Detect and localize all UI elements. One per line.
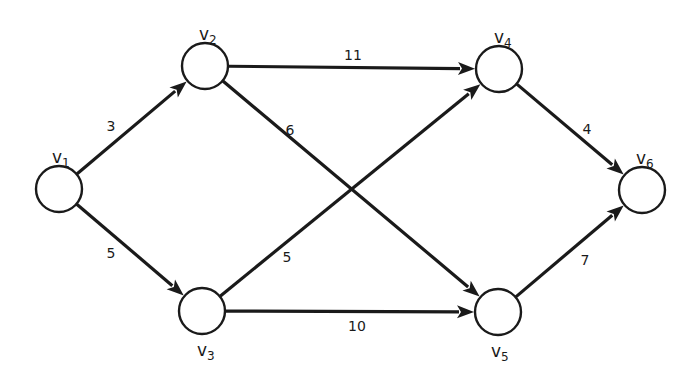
directed-graph-diagram: 3511651047 v1v2v3v4v5v6 — [0, 0, 691, 376]
edge-line — [225, 311, 459, 312]
node-circle — [475, 289, 521, 335]
node-circle — [182, 43, 228, 89]
edge-weight-label: 10 — [348, 318, 366, 334]
edge-weight-label: 5 — [107, 245, 116, 261]
node-circle — [619, 167, 665, 213]
node-circle — [179, 288, 225, 334]
edge-weight-label: 7 — [581, 252, 590, 268]
edge-weight-label: 5 — [283, 249, 292, 265]
edge-weight-label: 6 — [286, 122, 295, 138]
edge-weight-label: 11 — [344, 47, 362, 63]
node-circle — [36, 166, 82, 212]
edge-weight-label: 4 — [583, 121, 592, 137]
edge-weight-label: 3 — [107, 118, 116, 134]
node-circle — [476, 46, 522, 92]
